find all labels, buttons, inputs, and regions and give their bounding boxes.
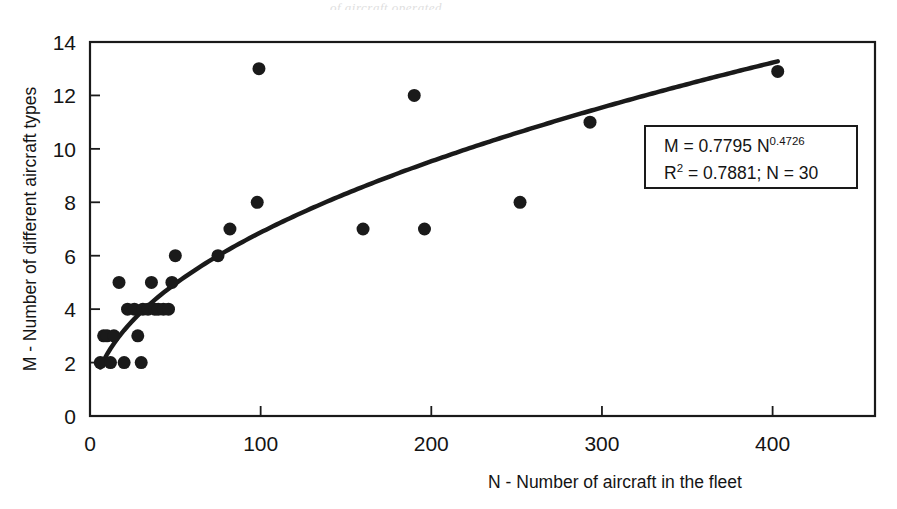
data-point xyxy=(252,62,265,75)
y-tick-label: 8 xyxy=(64,191,76,214)
x-tick-label: 300 xyxy=(584,432,619,455)
data-point xyxy=(169,249,182,262)
y-tick-label: 10 xyxy=(53,138,76,161)
data-point xyxy=(771,65,784,78)
data-point xyxy=(357,223,370,236)
data-point xyxy=(162,303,175,316)
equation-annotation-box: M = 0.7795 N0.4726 R2 = 0.7881; N = 30 xyxy=(645,126,857,188)
data-point xyxy=(113,276,126,289)
figure-container: of aircraft operated 02468101214 0100200… xyxy=(0,0,897,509)
data-point xyxy=(104,356,117,369)
y-tick-label: 0 xyxy=(64,405,76,428)
y-tick-label: 12 xyxy=(53,84,76,107)
data-point xyxy=(223,223,236,236)
data-point xyxy=(131,329,144,342)
y-tick-label: 14 xyxy=(53,31,77,54)
y-axis-title: M - Number of different aircraft types xyxy=(20,86,40,371)
equation-model-text: M = 0.7795 N xyxy=(664,136,770,156)
data-point xyxy=(165,276,178,289)
x-axis-title: N - Number of aircraft in the fleet xyxy=(488,472,742,492)
data-point xyxy=(211,249,224,262)
equation-line-2: R2 = 0.7881; N = 30 xyxy=(664,162,819,183)
data-point xyxy=(584,116,597,129)
equation-exponent-text: 0.4726 xyxy=(770,135,805,147)
data-point xyxy=(107,329,120,342)
data-point xyxy=(135,356,148,369)
data-point xyxy=(118,356,131,369)
scatter-chart: 02468101214 0100200300400 N - Number of … xyxy=(0,0,897,509)
x-axis-tick-labels: 0100200300400 xyxy=(84,432,790,455)
y-axis-tick-labels: 02468101214 xyxy=(53,31,77,428)
data-point xyxy=(514,196,527,209)
data-point xyxy=(418,223,431,236)
y-tick-label: 2 xyxy=(64,352,76,375)
x-tick-label: 200 xyxy=(414,432,449,455)
x-tick-label: 400 xyxy=(755,432,790,455)
r-squared-value-text: = 0.7881; N = 30 xyxy=(683,163,819,183)
data-point xyxy=(251,196,264,209)
y-tick-label: 4 xyxy=(64,298,76,321)
data-point xyxy=(145,276,158,289)
data-point xyxy=(408,89,421,102)
plot-area-border xyxy=(90,42,875,416)
x-tick-label: 0 xyxy=(84,432,96,455)
x-tick-label: 100 xyxy=(243,432,278,455)
y-tick-label: 6 xyxy=(64,245,76,268)
plot-frame xyxy=(90,42,875,416)
r-squared-symbol: R xyxy=(664,163,677,183)
